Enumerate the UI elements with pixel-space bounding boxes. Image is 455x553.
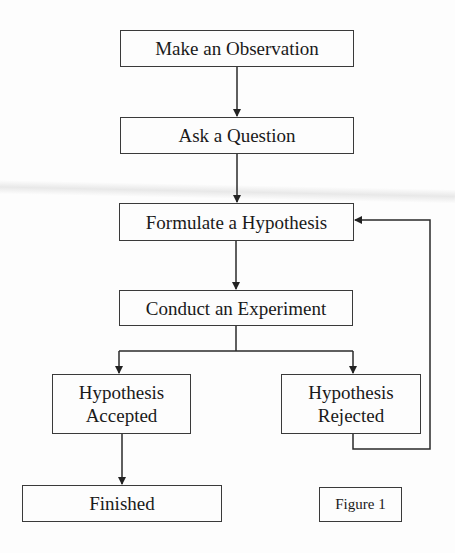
node-formulate-hypothesis: Formulate a Hypothesis (119, 203, 354, 241)
node-label-line2: Accepted (86, 404, 158, 427)
node-conduct-experiment: Conduct an Experiment (119, 290, 353, 326)
node-label: Conduct an Experiment (146, 297, 326, 320)
connector-lines (0, 0, 455, 553)
node-label: Make an Observation (155, 37, 319, 60)
node-label-line1: Hypothesis (79, 381, 165, 404)
node-hypothesis-accepted: Hypothesis Accepted (52, 374, 191, 434)
node-make-observation: Make an Observation (120, 30, 354, 67)
node-ask-question: Ask a Question (120, 117, 354, 154)
flowchart-canvas: Make an Observation Ask a Question Formu… (0, 0, 455, 553)
node-finished: Finished (22, 485, 222, 522)
caption-label: Figure 1 (335, 493, 385, 516)
node-label: Finished (89, 492, 154, 515)
figure-caption: Figure 1 (319, 487, 402, 522)
node-label: Formulate a Hypothesis (146, 211, 328, 234)
node-hypothesis-rejected: Hypothesis Rejected (281, 374, 421, 434)
node-label-line2: Rejected (318, 404, 384, 427)
node-label-line1: Hypothesis (308, 381, 394, 404)
node-label: Ask a Question (178, 124, 295, 147)
